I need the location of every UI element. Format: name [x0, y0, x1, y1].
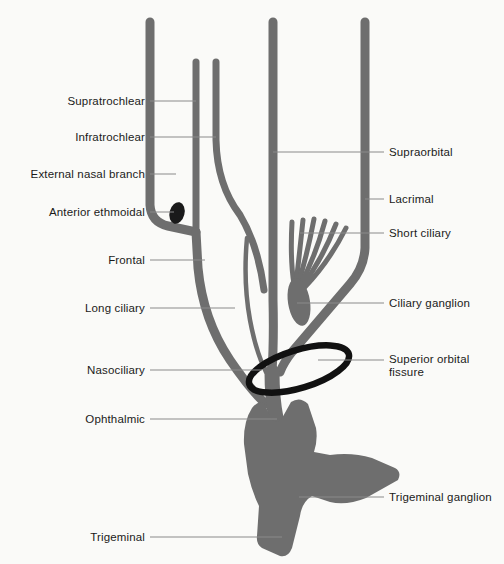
label-nasociliary: Nasociliary	[87, 364, 145, 377]
short-ciliary-nerve-1	[291, 222, 294, 284]
label-ciliary-ganglion: Ciliary ganglion	[389, 297, 470, 310]
label-lacrimal: Lacrimal	[389, 193, 434, 206]
label-supraorbital: Supraorbital	[389, 146, 453, 159]
label-external-nasal-branch: External nasal branch	[31, 168, 145, 181]
trigeminal-ganglion-body	[244, 399, 400, 556]
supratrochlear-nerve	[150, 22, 196, 232]
label-long-ciliary: Long ciliary	[85, 302, 145, 315]
label-frontal: Frontal	[108, 254, 145, 267]
label-supratrochlear: Supratrochlear	[67, 95, 145, 108]
anatomy-figure: Supratrochlear Infratrochlear External n…	[0, 0, 504, 564]
label-anterior-ethmoidal: Anterior ethmoidal	[49, 206, 145, 219]
nerve-diagram-svg	[0, 0, 504, 564]
frontal-nerve	[272, 22, 273, 372]
label-infratrochlear: Infratrochlear	[75, 131, 145, 144]
label-short-ciliary: Short ciliary	[389, 227, 451, 240]
label-ophthalmic: Ophthalmic	[85, 413, 145, 426]
lacrimal-nerve	[280, 22, 365, 372]
label-trigeminal: Trigeminal	[90, 531, 145, 544]
label-trigeminal-ganglion: Trigeminal ganglion	[389, 491, 492, 504]
label-superior-orbital-fissure: Superior orbital fissure	[389, 353, 469, 379]
external-nasal-branch-nerve	[216, 62, 264, 290]
anterior-ethmoidal-nodule	[167, 201, 187, 226]
